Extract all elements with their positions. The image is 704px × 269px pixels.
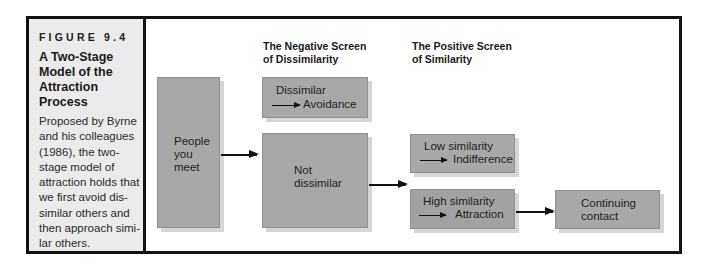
figure-label: FIGURE 9.4 bbox=[39, 31, 128, 43]
title-line: Attraction bbox=[39, 80, 139, 95]
heading-negative-screen: The Negative Screen of Dissimilarity bbox=[263, 40, 366, 65]
figure-title: A Two-Stage Model of the Attraction Proc… bbox=[39, 50, 139, 110]
box-dissimilar-avoidance: Dissimilar Avoidance bbox=[262, 77, 368, 118]
arrow-right-icon bbox=[420, 160, 447, 161]
caption-line: stage model of bbox=[39, 160, 143, 175]
box-text: Indifference bbox=[453, 153, 513, 166]
arrow-right-icon bbox=[221, 154, 257, 156]
box-text: People bbox=[174, 135, 210, 148]
arrow-right-icon bbox=[272, 105, 300, 106]
caption-line: (1986), the two- bbox=[39, 145, 143, 160]
box-text: Avoidance bbox=[303, 98, 357, 111]
box-text: dissimilar bbox=[294, 177, 342, 190]
caption-line: and his colleagues bbox=[39, 129, 143, 144]
box-text: Continuing bbox=[581, 197, 636, 210]
figure-caption: Proposed by Byrne and his colleagues (19… bbox=[39, 114, 143, 252]
arrow-right-icon bbox=[516, 211, 553, 213]
heading-line: of Similarity bbox=[412, 53, 512, 66]
heading-line: The Positive Screen bbox=[412, 40, 512, 53]
box-text: you bbox=[174, 148, 210, 161]
caption-line: attraction holds that bbox=[39, 175, 143, 190]
heading-positive-screen: The Positive Screen of Similarity bbox=[412, 40, 512, 65]
heading-line: of Dissimilarity bbox=[263, 53, 366, 66]
box-text: contact bbox=[581, 210, 636, 223]
box-text: Attraction bbox=[455, 208, 504, 221]
box-text: Low similarity bbox=[424, 140, 493, 153]
arrow-right-icon bbox=[419, 215, 446, 216]
caption-line: we first avoid dis- bbox=[39, 190, 143, 205]
caption-line: similar others and bbox=[39, 206, 143, 221]
caption-line: then approach simi- bbox=[39, 221, 143, 236]
figure-sidebar: FIGURE 9.4 A Two-Stage Model of the Attr… bbox=[29, 19, 146, 251]
box-low-similarity-indifference: Low similarity Indifference bbox=[410, 134, 515, 173]
box-not-dissimilar: Not dissimilar bbox=[262, 133, 368, 228]
box-text: meet bbox=[174, 161, 210, 174]
caption-line: lar others. bbox=[39, 236, 143, 251]
figure-frame: FIGURE 9.4 A Two-Stage Model of the Attr… bbox=[26, 16, 682, 254]
box-high-similarity-attraction: High similarity Attraction bbox=[410, 189, 515, 229]
heading-line: The Negative Screen bbox=[263, 40, 366, 53]
box-text: High similarity bbox=[423, 195, 495, 208]
title-line: Process bbox=[39, 95, 139, 110]
arrow-right-icon bbox=[369, 184, 406, 186]
box-continuing-contact: Continuing contact bbox=[555, 190, 660, 229]
box-text: Not bbox=[294, 164, 342, 177]
caption-line: Proposed by Byrne bbox=[39, 114, 143, 129]
box-text: Dissimilar bbox=[276, 84, 326, 97]
title-line: Model of the bbox=[39, 65, 139, 80]
box-people-you-meet: People you meet bbox=[157, 77, 220, 228]
title-line: A Two-Stage bbox=[39, 50, 139, 65]
